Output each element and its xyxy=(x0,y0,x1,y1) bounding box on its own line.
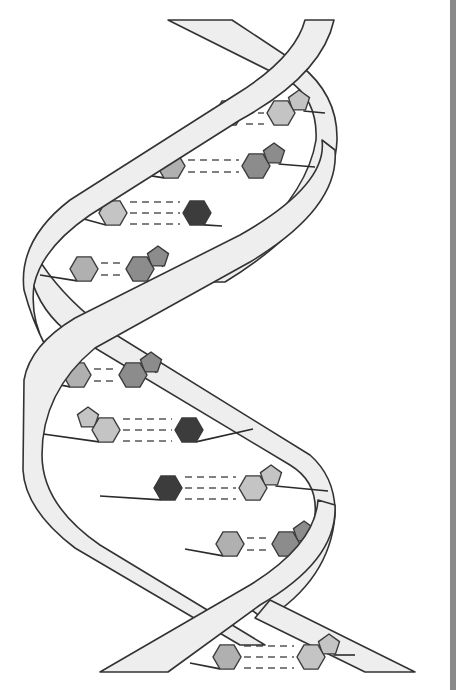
sugar-link-left xyxy=(36,433,99,442)
sugar-link-left xyxy=(185,549,223,556)
base-hexagon-right xyxy=(175,418,203,442)
sugar-link-left xyxy=(100,496,161,500)
sugar-link-right xyxy=(204,225,222,226)
base-pair xyxy=(40,246,169,281)
base-hexagon-right xyxy=(239,476,267,500)
base-hexagon-right xyxy=(126,257,154,281)
base-hexagon-right xyxy=(267,101,295,125)
base-hexagon-left xyxy=(154,476,182,500)
base-pair xyxy=(190,634,355,669)
base-hexagon-right xyxy=(297,645,325,669)
base-hexagon-left xyxy=(216,532,244,556)
base-hexagon-left xyxy=(213,645,241,669)
base-hexagon-right xyxy=(242,154,270,178)
base-pair xyxy=(100,465,328,500)
back-strand-segment-bottom xyxy=(255,600,415,672)
sugar-link-left xyxy=(190,663,220,669)
frame-right-border xyxy=(450,0,456,690)
dna-helix-illustration xyxy=(0,0,458,690)
base-hexagon-left xyxy=(70,257,98,281)
base-hexagon-right xyxy=(183,201,211,225)
base-hexagon-left xyxy=(92,418,120,442)
base-hexagon-right xyxy=(119,363,147,387)
